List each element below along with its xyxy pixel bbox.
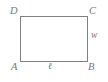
vertex-label-c: C <box>89 6 96 17</box>
rectangle-outline <box>21 17 88 62</box>
vertex-label-b: B <box>88 62 94 73</box>
side-label-width: w <box>91 31 97 41</box>
side-label-length: ℓ <box>48 62 52 72</box>
vertex-label-a: A <box>11 62 17 73</box>
vertex-label-d: D <box>10 6 18 17</box>
rectangle-figure: D C A B ℓ w <box>0 0 108 82</box>
